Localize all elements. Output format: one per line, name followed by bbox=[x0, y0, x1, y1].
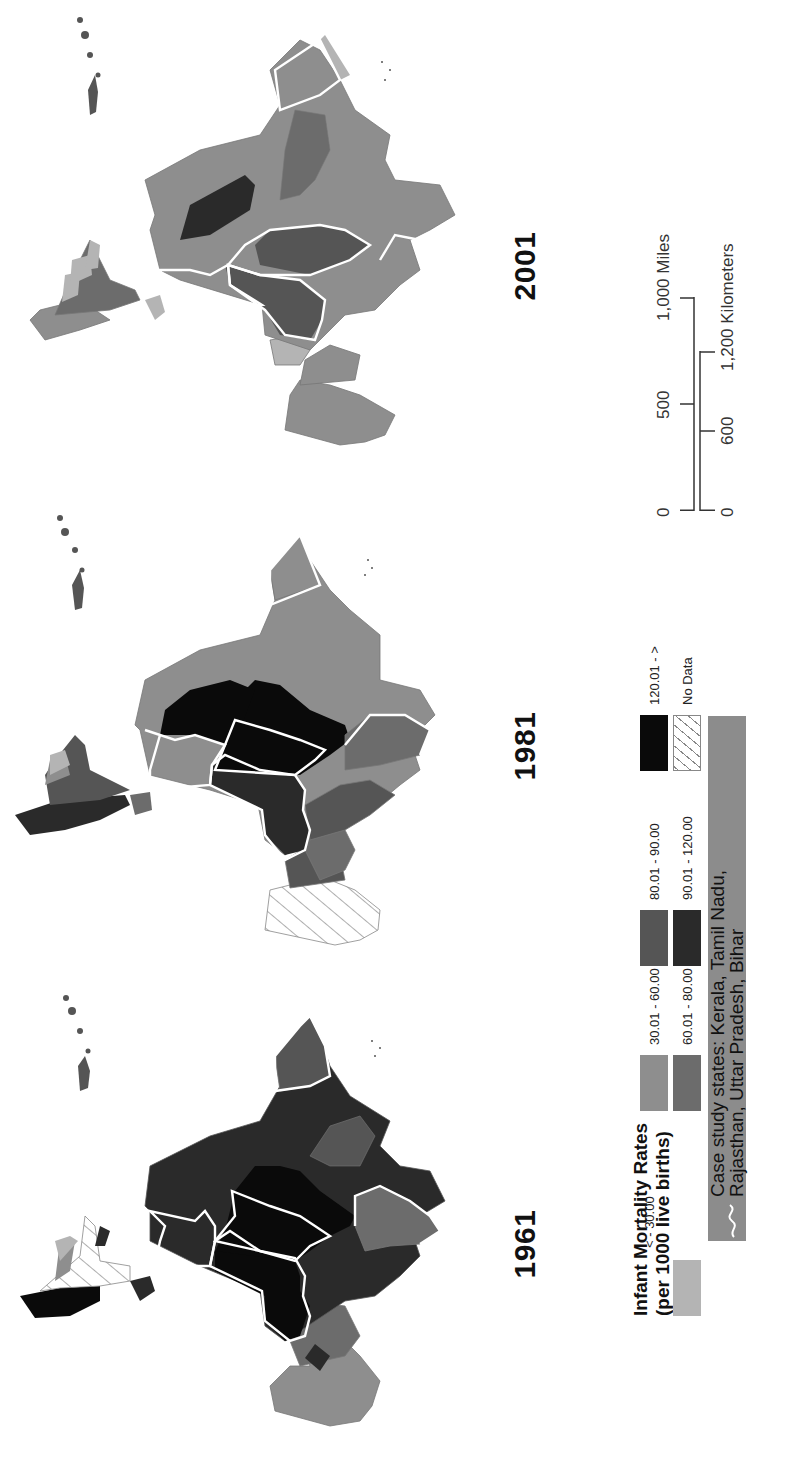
scale-bar: 0 500 1,000 Miles 0 600 1,200 Kilometers bbox=[640, 211, 740, 511]
figure-stage: 1961 1981 2001 Infant Mortality Rates (p… bbox=[0, 0, 798, 1466]
scale-km-0: 0 bbox=[718, 508, 738, 517]
scale-miles-1000: 1,000 Miles bbox=[654, 234, 674, 321]
year-label-1981: 1981 bbox=[508, 676, 542, 816]
scale-km-1200: 1,200 Kilometers bbox=[718, 243, 738, 371]
swatch-30-60 bbox=[640, 1055, 668, 1111]
swatch-no-data bbox=[673, 715, 701, 771]
white-outline-icon bbox=[708, 1201, 746, 1241]
legend-item-no-data: No Data bbox=[673, 657, 701, 771]
india-map-1981 bbox=[0, 500, 480, 980]
swatch-90-120 bbox=[673, 910, 701, 966]
legend-item-90-120: 90.01 - 120.00 bbox=[673, 816, 701, 966]
swatch-60-80 bbox=[673, 1055, 701, 1111]
case-study-box: Case study states: Kerala, Tamil Nadu, R… bbox=[708, 716, 746, 1241]
case-study-text: Case study states: Kerala, Tamil Nadu, R… bbox=[708, 870, 746, 1197]
legend-item-lt30-label: < - 30.00 bbox=[642, 1196, 657, 1248]
legend-item-30-60: 30.01 - 60.00 bbox=[640, 968, 668, 1111]
scale-miles-0: 0 bbox=[654, 508, 674, 517]
year-label-2001: 2001 bbox=[508, 196, 542, 336]
india-map-2001 bbox=[0, 0, 480, 480]
map-1961 bbox=[0, 986, 480, 1466]
legend-item-gt120: 120.01 - > bbox=[640, 646, 668, 771]
year-label-1961: 1961 bbox=[508, 1174, 542, 1314]
swatch-lt30 bbox=[673, 1260, 701, 1316]
swatch-gt120 bbox=[640, 715, 668, 771]
scale-km-600: 600 bbox=[718, 417, 738, 445]
map-1981 bbox=[0, 500, 480, 980]
legend-item-60-80: 60.01 - 80.00 bbox=[673, 968, 701, 1111]
legend-item-lt30 bbox=[673, 1260, 701, 1316]
scale-miles-500: 500 bbox=[654, 391, 674, 419]
india-map-1961 bbox=[0, 986, 480, 1466]
legend-item-80-90: 80.01 - 90.00 bbox=[640, 823, 668, 966]
map-2001 bbox=[0, 0, 480, 480]
swatch-80-90 bbox=[640, 910, 668, 966]
